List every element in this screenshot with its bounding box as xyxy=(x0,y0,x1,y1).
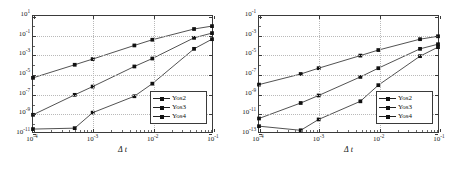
x-axis-minor-tick xyxy=(151,130,152,132)
legend-marker-icon xyxy=(379,103,396,112)
x-axis-tick-label: 10-3 xyxy=(306,136,330,143)
legend-marker-icon xyxy=(379,112,396,121)
figure-two-panel-convergence: Δ t Yos2 Yos3 Yos4 10110-110-310-510-710… xyxy=(0,0,451,170)
x-axis-minor-tick xyxy=(398,130,399,132)
y-axis-minor-tick xyxy=(259,85,261,86)
x-axis-minor-tick xyxy=(288,130,289,132)
y-axis-minor-tick xyxy=(33,124,35,125)
data-point-marker xyxy=(358,99,362,103)
x-axis-tick-label: 10-1 xyxy=(427,136,451,143)
data-point-marker xyxy=(132,44,136,48)
x-axis-tick-label: 10-1 xyxy=(201,136,225,143)
data-point-marker xyxy=(31,76,35,80)
grid-line-horizontal xyxy=(259,36,438,37)
x-axis-minor-tick xyxy=(437,130,438,132)
x-axis-minor-tick xyxy=(374,130,375,132)
x-axis-minor-tick xyxy=(205,130,206,132)
data-point-marker xyxy=(418,47,422,51)
data-point-marker xyxy=(436,45,440,49)
x-axis-minor-tick xyxy=(140,130,141,132)
legend-label: Yos4 xyxy=(170,112,186,121)
y-axis-tick-label: 10-7 xyxy=(19,90,30,97)
x-axis-tick-top xyxy=(440,16,441,19)
x-axis-minor-tick xyxy=(370,130,371,132)
y-axis-tick-label: 10-3 xyxy=(19,50,30,57)
legend-item-yos3: Yos3 xyxy=(379,103,429,112)
grid-line-horizontal xyxy=(259,55,438,56)
x-axis-minor-tick xyxy=(377,130,378,132)
x-axis-tick-label: 10-2 xyxy=(367,136,391,143)
x-axis-minor-tick xyxy=(362,130,363,132)
y-axis-tick-label: 10-7 xyxy=(245,70,256,77)
x-axis-tick-label: 10-4 xyxy=(246,136,270,143)
x-axis-tick xyxy=(260,129,261,132)
y-axis-tick xyxy=(33,75,36,76)
y-axis-minor-tick xyxy=(33,85,35,86)
grid-line-horizontal xyxy=(259,75,438,76)
x-axis-minor-tick xyxy=(148,130,149,132)
y-axis-minor-tick xyxy=(33,65,35,66)
y-axis-tick xyxy=(33,95,36,96)
x-axis-tick xyxy=(380,129,381,132)
y-axis-minor-tick xyxy=(259,65,261,66)
y-axis-tick-right xyxy=(209,75,212,76)
chart-panel-left: Δ t Yos2 Yos3 Yos4 10110-110-310-510-710… xyxy=(0,0,225,170)
x-axis-minor-tick xyxy=(431,130,432,132)
y-axis-tick-label: 10-3 xyxy=(245,31,256,38)
x-axis-tick xyxy=(440,129,441,132)
data-point-marker xyxy=(299,101,303,105)
y-axis-tick-label: 10-1 xyxy=(19,31,30,38)
x-axis-minor-tick xyxy=(422,130,423,132)
y-axis-tick-right xyxy=(435,36,438,37)
x-axis-tick-label: 10-4 xyxy=(20,136,44,143)
x-axis-minor-tick xyxy=(301,130,302,132)
x-axis-tick xyxy=(214,129,215,132)
legend-label: Yos3 xyxy=(396,103,412,112)
x-axis-minor-tick xyxy=(190,130,191,132)
x-axis-minor-tick xyxy=(201,130,202,132)
x-axis-tick xyxy=(93,129,94,132)
legend-item-yos4: Yos4 xyxy=(379,112,429,121)
y-axis-tick-right xyxy=(209,95,212,96)
y-axis-tick-right xyxy=(435,95,438,96)
x-axis-minor-tick xyxy=(211,130,212,132)
y-axis-tick-label: 10-1 xyxy=(245,11,256,18)
legend-marker-icon xyxy=(153,103,170,112)
legend-marker-icon xyxy=(153,94,170,103)
x-axis-minor-tick xyxy=(416,130,417,132)
x-axis-tick xyxy=(154,129,155,132)
y-axis-tick-label: 10-5 xyxy=(245,50,256,57)
x-axis-minor-tick xyxy=(130,130,131,132)
x-axis-title: Δ t xyxy=(324,146,374,154)
x-axis-minor-tick xyxy=(306,130,307,132)
y-axis-minor-tick xyxy=(259,26,261,27)
x-axis-tick xyxy=(34,129,35,132)
x-axis-minor-tick xyxy=(91,130,92,132)
y-axis-tick xyxy=(33,55,36,56)
x-axis-tick-top xyxy=(319,16,320,19)
y-axis-tick-label: 10-5 xyxy=(19,70,30,77)
x-axis-minor-tick xyxy=(144,130,145,132)
y-axis-tick xyxy=(33,114,36,115)
legend-label: Yos3 xyxy=(170,103,186,112)
x-axis-minor-tick xyxy=(348,130,349,132)
y-axis-tick-label: 10-11 xyxy=(242,109,256,116)
x-axis-minor-tick xyxy=(182,130,183,132)
x-axis-minor-tick xyxy=(87,130,88,132)
y-axis-tick xyxy=(33,17,36,18)
y-axis-minor-tick xyxy=(33,105,35,106)
x-axis-minor-tick xyxy=(295,130,296,132)
x-axis-tick-top xyxy=(380,16,381,19)
y-axis-tick xyxy=(33,36,36,37)
x-axis-minor-tick xyxy=(337,130,338,132)
y-axis-tick-right xyxy=(209,55,212,56)
x-axis-minor-tick xyxy=(69,130,70,132)
x-axis-tick xyxy=(319,129,320,132)
y-axis-tick-right xyxy=(435,75,438,76)
y-axis-tick-label: 10-9 xyxy=(245,90,256,97)
legend-right: Yos2 Yos3 Yos4 xyxy=(376,91,433,124)
legend-left: Yos2 Yos3 Yos4 xyxy=(150,91,207,124)
x-axis-minor-tick xyxy=(408,130,409,132)
y-axis-tick xyxy=(259,36,262,37)
legend-item-yos2: Yos2 xyxy=(379,94,429,103)
